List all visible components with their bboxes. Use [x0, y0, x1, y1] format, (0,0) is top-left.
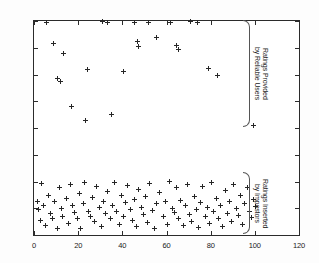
data-point-series-1: [181, 223, 186, 228]
data-point-series-0: [85, 67, 90, 72]
x-axis-tick: [34, 231, 35, 235]
data-point-series-1: [152, 226, 157, 231]
data-point-series-1: [50, 216, 55, 221]
data-point-series-1: [64, 196, 69, 201]
data-point-series-1: [123, 200, 128, 205]
data-point-series-0: [195, 20, 200, 25]
data-point-series-0: [176, 47, 181, 52]
x-axis-tick: [167, 21, 168, 25]
data-point-series-1: [203, 214, 208, 219]
data-point-series-1: [150, 208, 155, 213]
y-axis-tick: [295, 75, 299, 76]
data-point-series-0: [105, 20, 110, 25]
data-point-series-1: [178, 198, 183, 203]
data-point-series-0: [132, 20, 137, 25]
data-point-series-1: [46, 193, 51, 198]
data-point-series-1: [110, 203, 115, 208]
data-point-series-1: [114, 209, 119, 214]
data-point-series-1: [36, 207, 41, 212]
data-point-series-1: [130, 218, 135, 223]
data-point-series-0: [168, 20, 173, 25]
data-point-series-1: [236, 213, 241, 218]
y-axis-tick: [34, 155, 38, 156]
x-axis-tick: [299, 21, 300, 25]
data-point-series-1: [216, 216, 221, 221]
data-point-series-1: [66, 221, 71, 226]
data-point-series-1: [145, 220, 150, 225]
data-point-series-1: [119, 193, 124, 198]
data-point-series-1: [185, 182, 190, 187]
x-axis-tick: [122, 21, 123, 25]
y-axis-tick: [295, 208, 299, 209]
data-point-series-0: [146, 20, 151, 25]
data-point-series-1: [77, 191, 82, 196]
x-axis-tick: [299, 231, 300, 235]
data-point-series-1: [209, 180, 214, 185]
x-axis-tick-label: 60: [163, 241, 171, 250]
data-point-series-1: [41, 203, 46, 208]
x-axis-tick-label: 100: [249, 241, 261, 250]
x-axis-tick-label: 0: [32, 241, 36, 250]
y-axis-tick: [34, 235, 38, 236]
data-point-series-1: [125, 183, 130, 188]
data-point-series-1: [214, 196, 219, 201]
data-point-series-0: [206, 66, 211, 71]
data-point-series-1: [183, 203, 188, 208]
y-axis-tick: [34, 182, 38, 183]
data-point-series-0: [83, 118, 88, 123]
data-point-series-1: [92, 219, 97, 224]
impostors-brace: [243, 172, 250, 234]
data-point-series-1: [229, 219, 234, 224]
y-axis-tick: [295, 48, 299, 49]
data-point-series-1: [38, 218, 43, 223]
x-axis-tick: [78, 231, 79, 235]
x-axis-tick: [122, 231, 123, 235]
x-axis-tick-label: 40: [118, 241, 126, 250]
data-point-series-1: [161, 214, 166, 219]
data-point-series-1: [165, 222, 170, 227]
data-point-series-1: [60, 214, 65, 219]
x-axis-tick-label: 80: [207, 241, 215, 250]
y-axis-tick: [295, 182, 299, 183]
data-point-series-1: [136, 187, 141, 192]
x-axis-tick-label: 120: [293, 241, 305, 250]
data-point-series-1: [108, 216, 113, 221]
x-axis-tick: [167, 231, 168, 235]
x-axis-tick: [78, 21, 79, 25]
data-point-series-1: [154, 201, 159, 206]
data-point-series-1: [72, 210, 77, 215]
y-axis-tick: [34, 128, 38, 129]
data-point-series-1: [134, 224, 139, 229]
data-point-series-0: [136, 44, 141, 49]
data-point-series-1: [35, 199, 40, 204]
data-point-series-1: [97, 205, 102, 210]
data-point-series-0: [51, 41, 56, 46]
x-axis-tick: [34, 21, 35, 25]
y-axis-tick: [295, 235, 299, 236]
data-point-series-1: [68, 182, 73, 187]
data-point-series-1: [90, 195, 95, 200]
data-point-series-1: [192, 194, 197, 199]
data-point-series-1: [55, 226, 60, 231]
data-point-series-1: [167, 179, 172, 184]
data-point-series-1: [52, 199, 57, 204]
data-point-series-1: [227, 199, 232, 204]
data-point-series-1: [211, 209, 216, 214]
data-point-series-1: [78, 226, 83, 231]
data-point-series-1: [112, 180, 117, 185]
data-point-series-1: [88, 214, 93, 219]
data-point-series-1: [75, 216, 80, 221]
y-axis-tick: [295, 101, 299, 102]
data-point-series-1: [196, 225, 201, 230]
reliable-users-brace: [243, 20, 250, 127]
data-point-series-1: [70, 203, 75, 208]
data-point-series-1: [39, 181, 44, 186]
data-point-series-1: [105, 189, 110, 194]
y-axis-tick: [295, 128, 299, 129]
data-point-series-0: [135, 39, 140, 44]
data-point-series-0: [154, 35, 159, 40]
data-point-series-0: [61, 51, 66, 56]
data-point-series-1: [103, 211, 108, 216]
data-point-series-1: [43, 223, 48, 228]
data-point-series-1: [128, 207, 133, 212]
